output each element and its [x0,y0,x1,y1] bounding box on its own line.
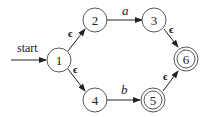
svg-text:a: a [122,3,129,18]
edge-1-4: ϵ [68,63,85,91]
state-6-accepting: 6 [174,47,198,71]
edge-3-6: ϵ [164,23,178,47]
svg-text:2: 2 [92,13,99,28]
svg-text:4: 4 [92,93,99,108]
state-5-accepting: 5 [141,88,165,112]
start-arrow: start [11,41,46,60]
state-3: 3 [142,8,166,32]
svg-text:6: 6 [183,52,190,67]
svg-text:5: 5 [150,93,157,108]
svg-text:ϵ: ϵ [68,27,73,39]
svg-text:1: 1 [56,53,63,68]
edge-5-6: ϵ [163,70,178,91]
state-2: 2 [83,8,107,32]
nfa-diagram: start ϵ ϵ a b ϵ ϵ 1 2 3 4 [0,0,214,117]
start-label: start [17,41,38,55]
edge-2-3: a [107,3,142,20]
svg-text:ϵ: ϵ [169,23,174,35]
svg-text:ϵ: ϵ [163,70,168,82]
svg-text:ϵ: ϵ [73,63,78,75]
state-4: 4 [83,88,107,112]
svg-text:b: b [121,82,128,97]
edge-1-2: ϵ [68,27,85,51]
svg-text:3: 3 [151,13,158,28]
state-1: 1 [47,48,71,72]
edge-4-5: b [107,82,140,100]
